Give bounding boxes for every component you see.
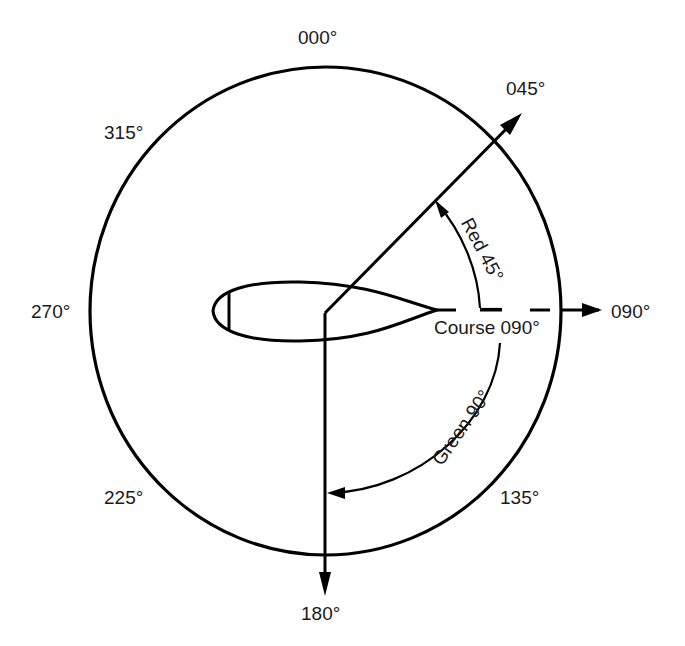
green-arc-arrowhead-icon: [327, 487, 345, 499]
course-label: Course 090°: [434, 318, 540, 337]
label-000: 000°: [298, 28, 337, 47]
label-045: 045°: [506, 79, 545, 98]
course-arrowhead-icon: [582, 303, 602, 317]
bearing-line-045: [325, 121, 514, 313]
label-225: 225°: [104, 488, 143, 507]
label-180: 180°: [301, 604, 340, 623]
bearing-180-arrowhead-icon: [319, 572, 331, 596]
label-315: 315°: [104, 123, 143, 142]
label-135: 135°: [500, 488, 539, 507]
label-270: 270°: [31, 302, 70, 321]
diagram-canvas: [0, 0, 685, 646]
label-090: 090°: [611, 302, 650, 321]
bearing-diagram: 000° 045° 090° 135° 180° 225° 270° 315° …: [0, 0, 685, 646]
